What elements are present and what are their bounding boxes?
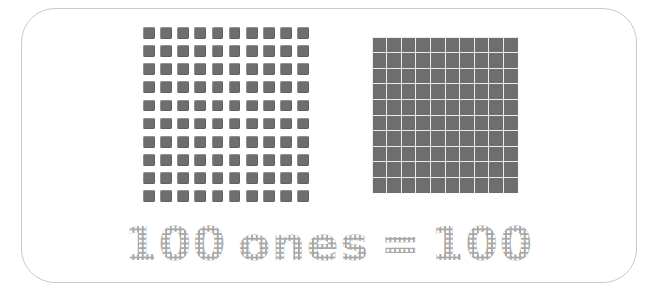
flat-unit bbox=[446, 38, 460, 53]
flat-unit bbox=[504, 69, 518, 84]
ones-unit bbox=[177, 81, 189, 93]
flat-unit bbox=[446, 69, 460, 84]
ones-unit bbox=[263, 118, 275, 130]
flat-unit bbox=[504, 162, 518, 177]
ones-unit bbox=[212, 154, 224, 166]
ones-unit bbox=[229, 100, 241, 112]
ones-unit bbox=[160, 63, 172, 75]
ones-unit bbox=[297, 63, 309, 75]
ones-unit bbox=[280, 136, 292, 148]
flat-unit bbox=[460, 131, 474, 146]
flat-unit bbox=[416, 178, 430, 193]
ones-unit bbox=[194, 172, 206, 184]
flat-unit bbox=[387, 53, 401, 68]
flat-unit bbox=[387, 69, 401, 84]
flat-unit bbox=[402, 53, 416, 68]
flat-unit bbox=[475, 162, 489, 177]
ones-unit bbox=[212, 190, 224, 202]
ones-unit bbox=[177, 27, 189, 39]
flat-unit bbox=[460, 84, 474, 99]
ones-unit bbox=[194, 100, 206, 112]
flat-unit bbox=[460, 116, 474, 131]
flat-unit bbox=[489, 131, 503, 146]
ones-unit bbox=[194, 27, 206, 39]
flat-unit bbox=[431, 116, 445, 131]
flat-unit bbox=[373, 53, 387, 68]
ones-unit bbox=[280, 118, 292, 130]
flat-unit bbox=[402, 162, 416, 177]
flat-unit bbox=[446, 147, 460, 162]
ones-unit bbox=[280, 190, 292, 202]
flat-unit bbox=[475, 178, 489, 193]
flat-unit bbox=[475, 100, 489, 115]
flat-unit bbox=[431, 178, 445, 193]
flat-unit bbox=[460, 53, 474, 68]
flat-unit bbox=[504, 84, 518, 99]
ones-unit bbox=[229, 154, 241, 166]
flat-unit bbox=[431, 100, 445, 115]
ones-unit bbox=[263, 190, 275, 202]
ones-unit bbox=[160, 100, 172, 112]
ones-unit bbox=[297, 45, 309, 57]
flat-unit bbox=[402, 38, 416, 53]
flat-unit bbox=[416, 162, 430, 177]
ones-unit bbox=[263, 45, 275, 57]
ones-unit bbox=[143, 45, 155, 57]
flat-unit bbox=[416, 53, 430, 68]
ones-unit bbox=[246, 100, 258, 112]
flat-unit bbox=[431, 162, 445, 177]
ones-unit bbox=[246, 27, 258, 39]
flat-unit bbox=[373, 147, 387, 162]
ones-unit bbox=[212, 45, 224, 57]
flat-unit bbox=[373, 131, 387, 146]
ones-unit bbox=[212, 100, 224, 112]
ones-unit bbox=[297, 172, 309, 184]
ones-unit bbox=[194, 45, 206, 57]
caption-word: ones ones bbox=[238, 220, 370, 267]
flat-unit bbox=[431, 53, 445, 68]
ones-unit bbox=[194, 136, 206, 148]
flat-unit bbox=[460, 100, 474, 115]
ones-unit bbox=[143, 81, 155, 93]
ones-unit bbox=[297, 27, 309, 39]
flat-unit bbox=[387, 38, 401, 53]
flat-unit bbox=[416, 147, 430, 162]
ones-unit bbox=[229, 63, 241, 75]
ones-unit bbox=[160, 190, 172, 202]
ones-unit bbox=[263, 136, 275, 148]
ones-unit bbox=[229, 27, 241, 39]
ones-unit bbox=[229, 172, 241, 184]
flat-unit bbox=[416, 100, 430, 115]
ones-unit bbox=[143, 118, 155, 130]
flat-unit bbox=[431, 147, 445, 162]
ones-unit bbox=[143, 100, 155, 112]
ones-unit bbox=[160, 154, 172, 166]
poster-canvas: 100 100 ones ones = = 100 100 bbox=[0, 0, 659, 292]
ones-unit bbox=[280, 100, 292, 112]
flat-unit bbox=[460, 178, 474, 193]
ones-unit bbox=[280, 27, 292, 39]
flat-unit bbox=[387, 162, 401, 177]
flat-unit bbox=[446, 162, 460, 177]
flat-unit bbox=[504, 131, 518, 146]
ones-unit bbox=[143, 172, 155, 184]
flat-unit bbox=[402, 116, 416, 131]
flat-unit bbox=[504, 100, 518, 115]
flat-unit bbox=[387, 116, 401, 131]
flat-unit bbox=[402, 69, 416, 84]
flat-unit bbox=[373, 69, 387, 84]
caption: 100 100 ones ones = = 100 100 bbox=[21, 212, 637, 274]
ones-unit bbox=[194, 154, 206, 166]
flat-unit bbox=[402, 147, 416, 162]
ones-unit bbox=[194, 118, 206, 130]
ones-unit bbox=[229, 118, 241, 130]
ones-unit bbox=[177, 45, 189, 57]
caption-right-number: 100 100 bbox=[431, 220, 534, 267]
ones-unit bbox=[229, 190, 241, 202]
ones-unit bbox=[297, 118, 309, 130]
flat-unit bbox=[431, 84, 445, 99]
flat-unit bbox=[446, 100, 460, 115]
flat-unit bbox=[373, 38, 387, 53]
ones-unit bbox=[280, 154, 292, 166]
ones-unit bbox=[229, 45, 241, 57]
